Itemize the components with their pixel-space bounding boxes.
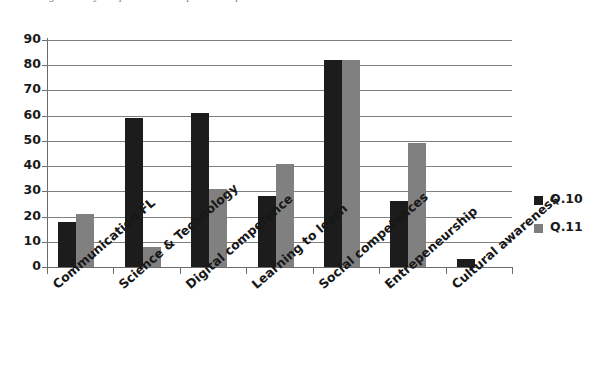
- y-axis-tick-mark: [42, 191, 47, 192]
- y-axis-tick-mark: [42, 40, 47, 41]
- legend-label-q11: Q.11: [550, 220, 583, 234]
- x-axis-tick: [313, 267, 314, 274]
- legend-label-q10: Q.10: [550, 192, 583, 206]
- x-axis-tick: [379, 267, 380, 274]
- y-axis-tick-mark: [42, 166, 47, 167]
- legend-item-q11: Q.11: [534, 220, 596, 248]
- y-axis-tick-mark: [42, 90, 47, 91]
- legend-swatch-icon-q10: [534, 196, 543, 205]
- x-axis-tick: [512, 267, 513, 274]
- y-axis-tick-mark: [42, 242, 47, 243]
- chart-legend: Q.10 Q.11: [534, 192, 596, 248]
- x-axis-tick: [446, 267, 447, 274]
- y-axis-tick-mark: [42, 116, 47, 117]
- legend-item-q10: Q.10: [534, 192, 596, 220]
- x-axis-tick: [246, 267, 247, 274]
- y-axis-tick-mark: [42, 65, 47, 66]
- x-axis-category-label: Science & Technology: [117, 182, 240, 292]
- y-axis-tick-mark: [42, 141, 47, 142]
- bar-chart: 0102030405060708090 Communication FLScie…: [0, 0, 598, 391]
- y-axis-tick-mark: [42, 217, 47, 218]
- x-axis-tick: [180, 267, 181, 274]
- legend-swatch-icon-q11: [534, 224, 543, 233]
- x-axis-tick: [47, 267, 48, 274]
- x-axis-labels: Communication FLScience & TechnologyDigi…: [0, 0, 598, 391]
- x-axis-tick: [113, 267, 114, 274]
